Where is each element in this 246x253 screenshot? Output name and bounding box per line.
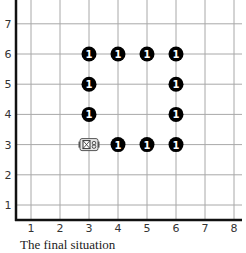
piece-label: 1 bbox=[173, 49, 180, 60]
piece-label: 1 bbox=[86, 109, 93, 120]
piece-label: 1 bbox=[144, 140, 151, 151]
x-tick-label: 4 bbox=[115, 222, 122, 235]
piece-label: 1 bbox=[86, 49, 93, 60]
x-tick-label: 2 bbox=[57, 222, 64, 235]
piece-label: 1 bbox=[173, 140, 180, 151]
x-tick-label: 7 bbox=[202, 222, 209, 235]
piece-label: 1 bbox=[144, 49, 151, 60]
piece-label: 1 bbox=[173, 109, 180, 120]
piece-label: 1 bbox=[86, 79, 93, 90]
piece-label: 1 bbox=[173, 79, 180, 90]
robot-icon bbox=[79, 139, 100, 151]
y-tick-label: 7 bbox=[5, 18, 12, 31]
x-tick-label: 8 bbox=[231, 222, 238, 235]
piece-label: 1 bbox=[115, 140, 122, 151]
y-tick-label: 1 bbox=[5, 199, 12, 212]
x-tick-label: 1 bbox=[28, 222, 35, 235]
grid-board: 12345678123456711111111111 bbox=[0, 0, 246, 236]
piece-label: 1 bbox=[115, 49, 122, 60]
y-tick-label: 4 bbox=[5, 108, 12, 121]
y-tick-label: 6 bbox=[5, 48, 12, 61]
y-tick-label: 3 bbox=[5, 139, 12, 152]
x-tick-label: 5 bbox=[144, 222, 151, 235]
y-tick-label: 2 bbox=[5, 169, 12, 182]
x-tick-label: 6 bbox=[173, 222, 180, 235]
x-tick-label: 3 bbox=[86, 222, 93, 235]
caption: The final situation bbox=[20, 237, 115, 253]
y-tick-label: 5 bbox=[5, 78, 12, 91]
